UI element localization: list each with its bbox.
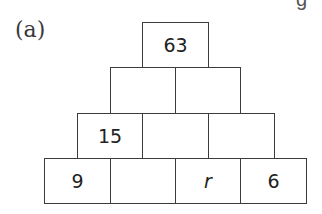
pyramid-cell xyxy=(208,113,275,159)
pyramid-cell xyxy=(142,113,209,159)
pyramid-cell xyxy=(110,158,176,204)
cropped-text-fragment: g xyxy=(296,0,307,11)
part-label: (a) xyxy=(15,17,45,42)
pyramid-cell-variable: r xyxy=(175,158,241,204)
variable-r: r xyxy=(204,170,212,192)
pyramid-cell xyxy=(175,67,241,114)
pyramid-cell-top: 63 xyxy=(142,22,209,68)
pyramid-cell: 9 xyxy=(44,158,111,204)
pyramid-cell: 15 xyxy=(77,113,143,159)
pyramid-cell: 6 xyxy=(240,158,307,204)
pyramid-cell xyxy=(110,67,176,114)
